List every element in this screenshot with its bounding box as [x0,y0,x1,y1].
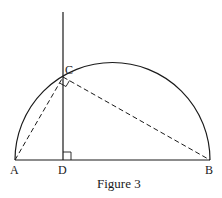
point-label-c: C [65,63,73,77]
geometry-diagram: A D B C Figure 3 [0,0,222,198]
dashed-segment-cb [63,77,210,160]
point-label-d: D [58,163,67,177]
semicircle-arc [15,63,210,161]
figure-caption: Figure 3 [97,176,141,191]
point-label-a: A [10,163,19,177]
right-angle-mark-d [63,152,71,160]
point-label-b: B [205,163,213,177]
dashed-segment-ac [15,77,63,160]
